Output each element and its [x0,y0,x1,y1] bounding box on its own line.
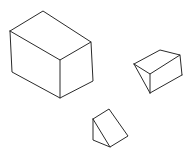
triangular-prism [93,109,128,147]
wedge-prism [134,50,182,93]
rectangular-box [10,11,93,98]
diagram-canvas [0,0,191,157]
